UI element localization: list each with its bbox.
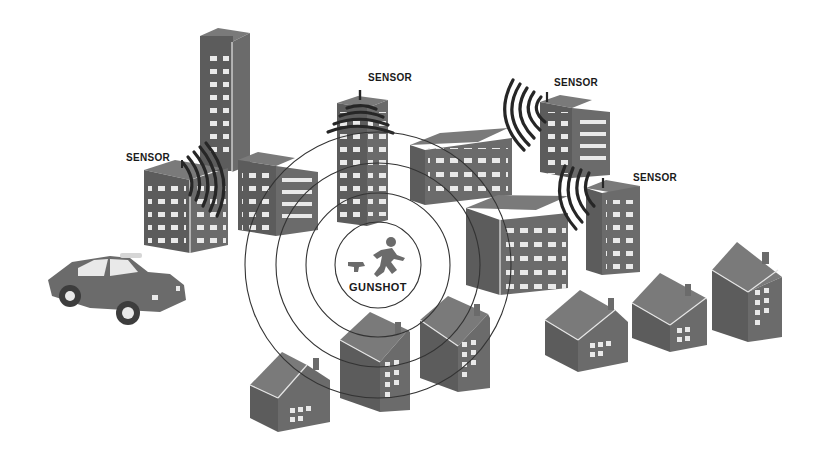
large-block-building [466,195,568,295]
mid-left-building [238,152,318,236]
house-icon [340,312,410,412]
gunshot-detection-diagram: SENSOR SENSOR [0,0,825,460]
sensor-label-1: SENSOR [126,152,171,163]
gunshot-label: GUNSHOT [349,281,407,293]
tall-apartment-building [200,28,250,172]
center-sensor-building [337,90,388,226]
house-icon [712,242,782,342]
ring-1 [335,222,421,308]
house-icon [420,296,490,392]
handgun-icon [348,262,365,272]
house-icon [632,273,707,352]
wide-building [410,128,512,205]
upper-right-sensor-building [540,92,610,178]
sensor-label-2: SENSOR [368,72,413,83]
police-car-icon [48,253,186,325]
sensor-label-4: SENSOR [633,172,678,183]
sensor-label-3: SENSOR [554,77,599,88]
lower-right-sensor-building [586,178,640,275]
running-person-icon [373,237,405,277]
house-icon [545,290,628,372]
